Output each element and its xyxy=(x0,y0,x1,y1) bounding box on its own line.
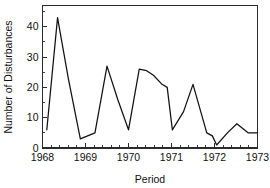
x-tick-label-1970: 1970 xyxy=(117,151,141,163)
x-tick-label-1972: 1972 xyxy=(203,151,227,163)
x-tick-label-1973: 1973 xyxy=(246,151,270,163)
x-tick-label-1968: 1968 xyxy=(31,151,55,163)
y-tick-label-20: 20 xyxy=(27,81,39,93)
y-tick-label-10: 10 xyxy=(27,111,39,123)
x-axis-title: Period xyxy=(135,173,166,185)
y-tick-label-40: 40 xyxy=(27,20,39,32)
x-tick-label-1971: 1971 xyxy=(160,151,184,163)
y-axis-title: Number of Disturbances xyxy=(2,20,14,133)
disturbances-line-chart: 010203040 196819691970197119721973 Perio… xyxy=(0,0,270,188)
x-tick-label-1969: 1969 xyxy=(74,151,98,163)
chart-container: 010203040 196819691970197119721973 Perio… xyxy=(0,0,270,188)
y-tick-label-30: 30 xyxy=(27,51,39,63)
